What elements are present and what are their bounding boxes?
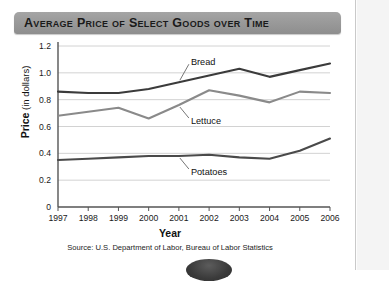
x-axis-tick-label: 1997 <box>48 213 67 221</box>
x-axis-title: Year <box>0 227 340 239</box>
line-chart-svg: 00.20.40.60.81.01.2199719981999200020012… <box>0 36 356 221</box>
x-axis-tick-label: 2006 <box>320 213 339 221</box>
series-line-lettuce <box>58 90 330 118</box>
y-axis-tick-label: 0 <box>46 202 51 212</box>
series-label-lettuce: Lettuce <box>191 116 221 126</box>
x-axis-tick-label: 2000 <box>139 213 158 221</box>
y-axis-title: Price (in dollars) <box>19 47 31 157</box>
y-axis-title-rest: (in dollars) <box>20 66 31 113</box>
leader-line-potatoes <box>180 158 189 169</box>
x-axis-tick-label: 1999 <box>109 213 128 221</box>
x-axis-tick-label: 2004 <box>260 213 279 221</box>
x-axis-tick-label: 1998 <box>79 213 98 221</box>
leader-line-bread <box>180 64 189 80</box>
chart-container: 00.20.40.60.81.01.2199719981999200020012… <box>0 36 356 221</box>
series-label-potatoes: Potatoes <box>191 167 228 177</box>
y-axis-tick-label: 0.6 <box>39 122 51 132</box>
series-line-potatoes <box>58 139 330 160</box>
source-caption: Source: U.S. Department of Labor, Bureau… <box>0 243 340 252</box>
page-tab-marker <box>186 259 232 281</box>
y-axis-tick-label: 0.2 <box>39 175 51 185</box>
series-label-bread: Bread <box>191 57 216 67</box>
y-axis-title-bold: Price <box>19 113 31 139</box>
x-axis-tick-label: 2001 <box>169 213 188 221</box>
x-axis-tick-label: 2002 <box>200 213 219 221</box>
x-axis-tick-label: 2003 <box>230 213 249 221</box>
x-axis-tick-label: 2005 <box>290 213 309 221</box>
y-axis-tick-label: 1.2 <box>39 41 51 51</box>
page-title: Average Price of Select Goods over Time <box>24 12 269 34</box>
page-gutter <box>357 0 389 270</box>
leader-line-lettuce <box>180 107 189 118</box>
y-axis-tick-label: 0.8 <box>39 95 51 105</box>
y-axis-tick-label: 0.4 <box>39 148 51 158</box>
chart-title-banner: Average Price of Select Goods over Time <box>14 12 341 34</box>
y-axis-tick-label: 1.0 <box>39 68 51 78</box>
series-line-bread <box>58 63 330 93</box>
